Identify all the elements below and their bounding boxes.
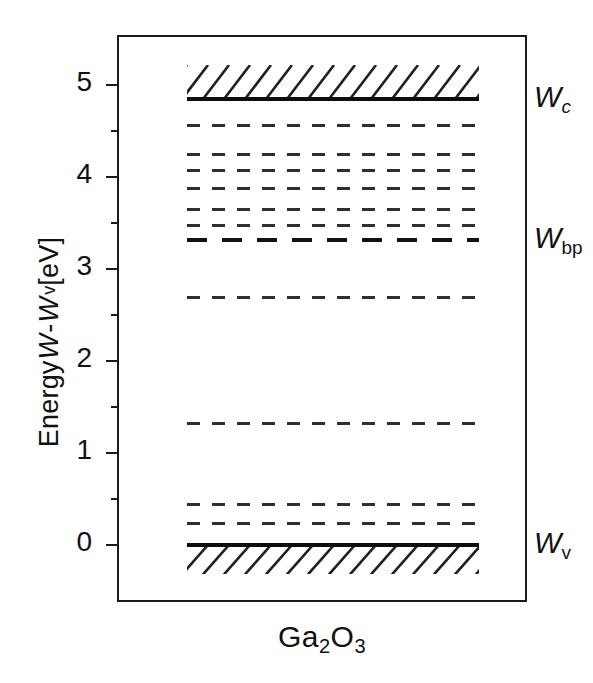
y-tick-major-3 bbox=[106, 268, 119, 270]
y-tick-major-5 bbox=[106, 84, 119, 86]
level-line bbox=[187, 224, 479, 227]
y-tick-major-0 bbox=[106, 544, 119, 546]
hatched-band-valence-band bbox=[187, 545, 479, 574]
level-line bbox=[187, 503, 479, 506]
y-tick-minor-2.5 bbox=[111, 314, 119, 316]
band-edge-label-Wbp: Wbp bbox=[534, 224, 583, 257]
level-line bbox=[187, 97, 479, 101]
y-tick-minor-3.5 bbox=[111, 222, 119, 224]
level-line bbox=[187, 238, 479, 242]
caption-o: O bbox=[331, 620, 355, 653]
band-edge-subscript: v bbox=[561, 542, 571, 563]
band-edge-subscript: bp bbox=[561, 236, 582, 257]
level-line bbox=[187, 153, 479, 156]
energy-level-diagram: Energy W - Wv [eV] 012345 E7E1E2E3E4H7H4… bbox=[0, 0, 593, 683]
y-tick-label-0: 0 bbox=[58, 528, 92, 556]
plot-frame bbox=[117, 35, 527, 602]
y-tick-minor-1.5 bbox=[111, 406, 119, 408]
level-line bbox=[187, 124, 479, 127]
y-axis-tick-labels: 012345 bbox=[46, 0, 92, 683]
y-tick-major-4 bbox=[106, 176, 119, 178]
caption-sub-3: 3 bbox=[354, 635, 366, 657]
y-tick-label-3: 3 bbox=[58, 252, 92, 280]
material-caption: Ga2O3 bbox=[117, 620, 527, 658]
y-tick-label-5: 5 bbox=[58, 68, 92, 96]
band-edge-symbol: W bbox=[534, 81, 561, 113]
level-line bbox=[187, 296, 479, 299]
y-tick-major-1 bbox=[106, 452, 119, 454]
level-line bbox=[187, 422, 479, 425]
level-line bbox=[187, 543, 479, 547]
band-edge-symbol: W bbox=[534, 222, 561, 254]
band-edge-label-Wv: Wv bbox=[534, 529, 571, 562]
caption-ga: Ga bbox=[278, 620, 319, 653]
level-line bbox=[187, 208, 479, 211]
level-line bbox=[187, 522, 479, 525]
hatched-band-conduction-band bbox=[187, 65, 479, 99]
y-tick-label-4: 4 bbox=[58, 160, 92, 188]
band-edge-subscript: c bbox=[561, 95, 571, 116]
level-line bbox=[187, 169, 479, 172]
y-tick-label-2: 2 bbox=[58, 344, 92, 372]
band-edge-label-Wc: Wc bbox=[534, 83, 571, 116]
y-tick-minor-0.5 bbox=[111, 498, 119, 500]
y-tick-major-2 bbox=[106, 360, 119, 362]
level-line bbox=[187, 187, 479, 190]
caption-sub-2: 2 bbox=[319, 635, 331, 657]
y-tick-label-1: 1 bbox=[58, 436, 92, 464]
band-edge-symbol: W bbox=[534, 527, 561, 559]
y-tick-minor-4.5 bbox=[111, 130, 119, 132]
